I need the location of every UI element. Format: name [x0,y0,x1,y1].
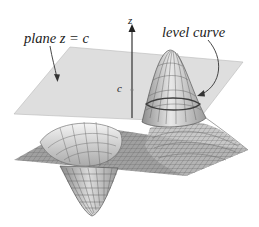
diagram-canvas: plane z = c level curve z c [0,0,259,227]
plane-label: plane z = c [24,30,89,47]
z-axis-label: z [128,14,132,26]
c-value-label: c [117,82,122,94]
c-tick-mark [131,89,134,92]
level-curve-label: level curve [162,24,225,41]
plane-z-equals-c [14,47,243,122]
surface-trough [60,166,118,216]
